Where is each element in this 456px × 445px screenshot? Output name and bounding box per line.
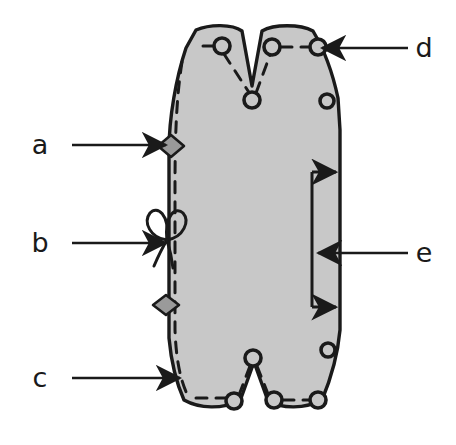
eyelet-notch-upper <box>244 92 260 108</box>
diagram-canvas: a b c d e <box>0 0 456 445</box>
eyelet-right-lower <box>321 343 335 357</box>
eyelet-bottom-left <box>226 393 242 409</box>
callout-label-c: c <box>33 362 48 393</box>
eyelet-right-upper <box>320 94 334 108</box>
callout-label-a: a <box>32 129 49 160</box>
callout-label-e: e <box>416 237 433 268</box>
figure-root: a b c d e <box>0 0 456 445</box>
bow-loop-left <box>147 210 167 240</box>
eyelet-top-mid-right <box>264 39 280 55</box>
eyelet-bottom-mid <box>266 392 282 408</box>
eyelet-notch-lower <box>245 350 261 366</box>
callout-label-d: d <box>415 32 432 63</box>
eyelet-bottom-right <box>310 392 326 408</box>
callout-label-b: b <box>31 227 48 258</box>
eyelet-top-left <box>214 38 230 54</box>
